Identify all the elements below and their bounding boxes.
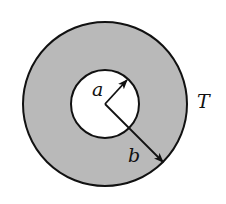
annulus-diagram: a b T [0,0,226,204]
inner-radius-label: a [92,78,103,100]
outer-radius-label: b [128,144,140,166]
temperature-label: T [197,90,211,112]
